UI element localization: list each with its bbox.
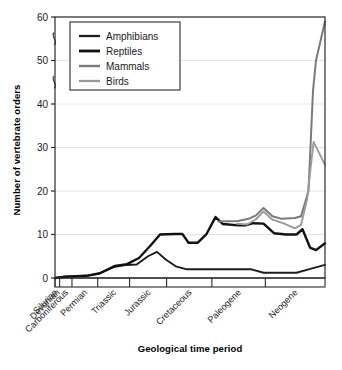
x-tick-label-neogene: Neogene xyxy=(267,287,300,320)
x-tick-label-paleogene: Paleogene xyxy=(206,287,244,325)
y-axis-title: Number of vertebrate orders xyxy=(11,85,22,216)
x-tick-label-triassic: Triassic xyxy=(89,287,118,316)
chart-legend: AmphibiansReptilesMammalsBirds xyxy=(70,22,180,90)
y-tick-label: 30 xyxy=(37,142,49,153)
x-axis-strip xyxy=(55,278,325,287)
y-tick-label: 40 xyxy=(37,99,49,110)
y-tick-label: 60 xyxy=(37,12,49,23)
chart-figure: 0102030405060 SilurianDevonianCarbonifer… xyxy=(0,0,342,370)
x-tick-label-jurassic: Jurassic xyxy=(122,287,153,318)
line-chart-svg: 0102030405060 SilurianDevonianCarbonifer… xyxy=(0,0,342,370)
y-axis-ticks: 0102030405060 xyxy=(37,12,55,284)
x-axis-title: Geological time period xyxy=(138,343,243,354)
legend-label-reptiles: Reptiles xyxy=(106,46,142,57)
x-axis-ticks: SilurianDevonianCarboniferousPermianTria… xyxy=(23,278,325,334)
x-tick-label-cretaceous: Cretaceous xyxy=(154,287,194,327)
y-tick-label: 10 xyxy=(37,229,49,240)
legend-label-birds: Birds xyxy=(106,76,129,87)
series-line-birds xyxy=(237,142,326,229)
y-tick-label: 20 xyxy=(37,186,49,197)
y-tick-label: 50 xyxy=(37,55,49,66)
legend-label-mammals: Mammals xyxy=(106,61,149,72)
legend-label-amphibians: Amphibians xyxy=(106,31,158,42)
y-tick-label: 0 xyxy=(42,273,48,284)
